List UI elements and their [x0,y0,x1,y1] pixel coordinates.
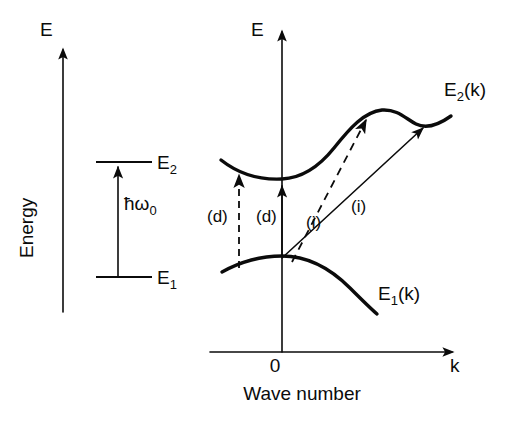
band-transition-diagram: E Energy E2 E1 ħω0 E k 0 Wave number [0,0,506,422]
left-panel: E Energy E2 E1 ħω0 [16,19,177,312]
figure-root: E Energy E2 E1 ħω0 E k 0 Wave number [0,0,506,422]
energy-axis-caption: Energy [16,197,37,258]
indirect-transition-solid-label: (i) [351,197,366,216]
band-wavenumber-axis-label: k [450,355,460,376]
direct-transition-solid-label: (d) [256,207,277,226]
right-panel: E k 0 Wave number E2(k) E1(k) (d) (d) (i… [207,19,486,404]
lower-band-curve [222,256,377,314]
upper-band-curve [221,110,451,179]
photon-energy-label: ħω0 [124,193,157,218]
energy-level-upper-label: E2 [157,152,177,177]
energy-level-lower-label: E1 [157,267,177,292]
left-energy-axis-label: E [40,19,53,40]
origin-tick-label: 0 [270,355,281,376]
lower-band-label: E1(k) [378,283,420,308]
upper-band-label: E2(k) [444,79,486,104]
band-energy-axis-label: E [251,19,264,40]
wave-number-caption: Wave number [243,383,361,404]
direct-transition-dashed-label: (d) [207,207,228,226]
